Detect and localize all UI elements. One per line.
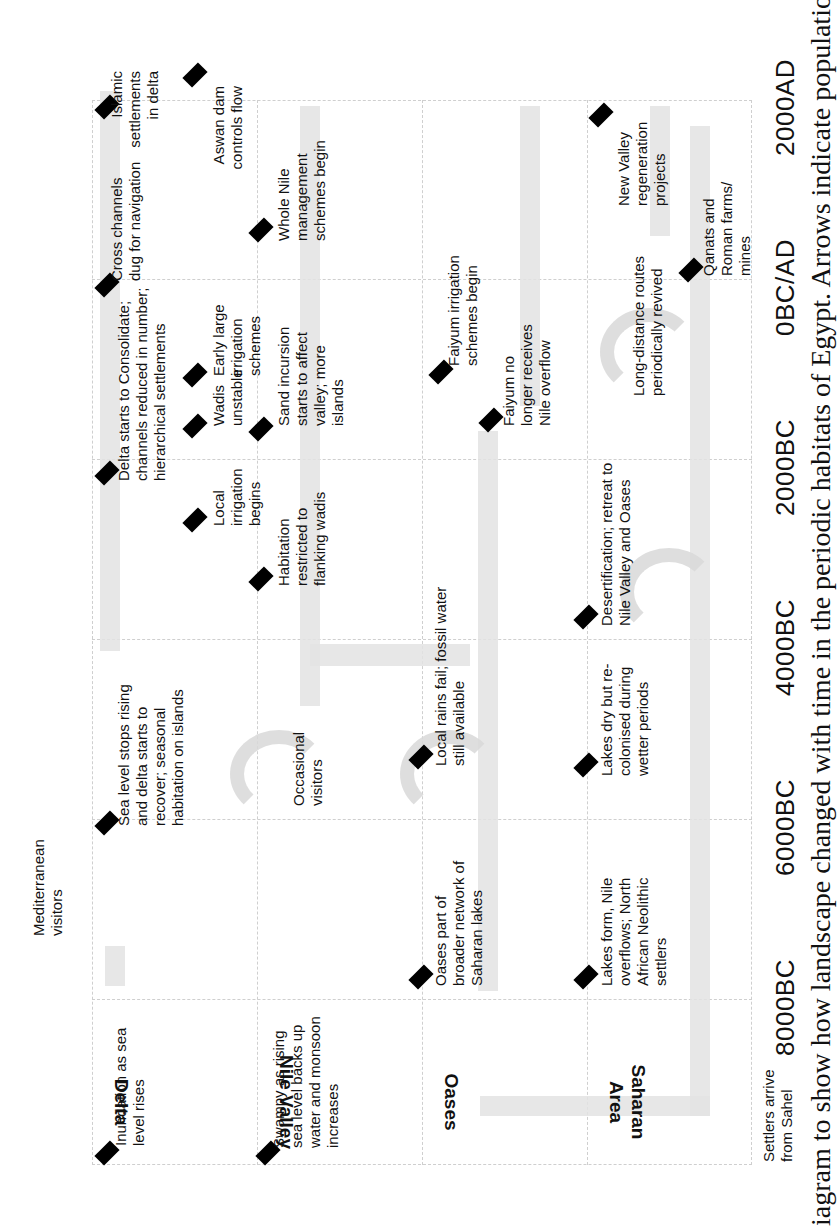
event-delta-sea-level-stops: Sea level stops rising and delta starts …: [115, 661, 187, 826]
column-divider: [92, 819, 752, 820]
column-divider: [92, 999, 752, 1000]
row-divider: [257, 100, 258, 1165]
event-delta-islamic: Islamic settlements in delta: [108, 71, 162, 161]
event-nile-aswan: Aswan dam controls flow: [210, 86, 246, 186]
event-nile-whole-nile: Whole Nile management schemes begin: [275, 116, 329, 241]
population-arrow-sahel-up: [480, 1096, 710, 1116]
event-nile-early-irrigation: Early large irrigation schemes: [210, 261, 264, 376]
sahel-settlers-label: Settlers arrive from Sahel: [760, 1052, 796, 1162]
event-saharan-new-valley: New Valley regeneration projects: [615, 106, 669, 206]
time-tick-6000bc: 6000BC: [770, 779, 801, 876]
event-nile-swampy: Swampy as rising sea level backs up wate…: [270, 1008, 342, 1148]
figure-caption: iagram to show how landscape changed wit…: [805, 0, 837, 1226]
event-nile-local-irrigation: Local irrigation begins: [210, 431, 264, 526]
event-saharan-long-distance: Long-distance routes periodically revive…: [630, 246, 666, 396]
event-delta-cross-channels: Cross channels dug for navigation: [108, 156, 144, 281]
time-tick-0bc-ad: 0BC/AD: [770, 239, 801, 336]
mediterranean-visitors-label: Mediterranean visitors: [30, 826, 66, 936]
time-tick-2000bc: 2000BC: [770, 419, 801, 516]
event-nile-occasional: Occasional visitors: [290, 716, 326, 806]
event-oases-rains-fail: Local rains fail; fossil water still ava…: [432, 586, 468, 766]
time-tick-2000ad: 2000AD: [770, 59, 801, 156]
curved-arrow: [620, 548, 718, 636]
event-saharan-lakes-dry: Lakes dry but re-colonised during wetter…: [598, 646, 652, 776]
population-arrow-delta: [105, 946, 125, 986]
event-nile-sand: Sand incursion starts to affect valley; …: [275, 296, 347, 426]
row-divider: [422, 100, 423, 1165]
event-saharan-qanats: Qanats and Roman farms/ mines: [700, 156, 754, 276]
event-nile-habitation: Habitation restricted to flanking wadis: [275, 476, 329, 586]
event-oases-network: Oases part of broader network of Saharan…: [432, 856, 486, 986]
event-oases-faiyum-irrigation: Faiyum irrigation schemes begin: [445, 236, 481, 366]
event-saharan-lakes-form: Lakes form, Nile overflows; North Africa…: [598, 846, 670, 986]
column-divider: [92, 459, 752, 460]
event-oases-faiyum-overflow: Faiyum no longer receives Nile overflow: [500, 316, 554, 426]
row-divider: [587, 100, 588, 1165]
column-divider: [92, 639, 752, 640]
row-label-oases: Oases: [440, 1046, 462, 1158]
time-tick-4000bc: 4000BC: [770, 599, 801, 696]
event-delta-inundation: Inundation as sea level rises: [112, 1026, 148, 1146]
row-label-saharan-area: Saharan Area: [605, 1046, 649, 1158]
event-marker: [182, 62, 207, 87]
time-tick-8000bc: 8000BC: [770, 959, 801, 1056]
event-saharan-desertification: Desertification; retreat to Nile Valley …: [598, 461, 634, 626]
event-delta-consolidate: Delta starts to Consolidate; channels re…: [115, 286, 169, 481]
diagram-stage: Delta Nile Valley Oases Saharan Area Med…: [0, 0, 838, 1226]
